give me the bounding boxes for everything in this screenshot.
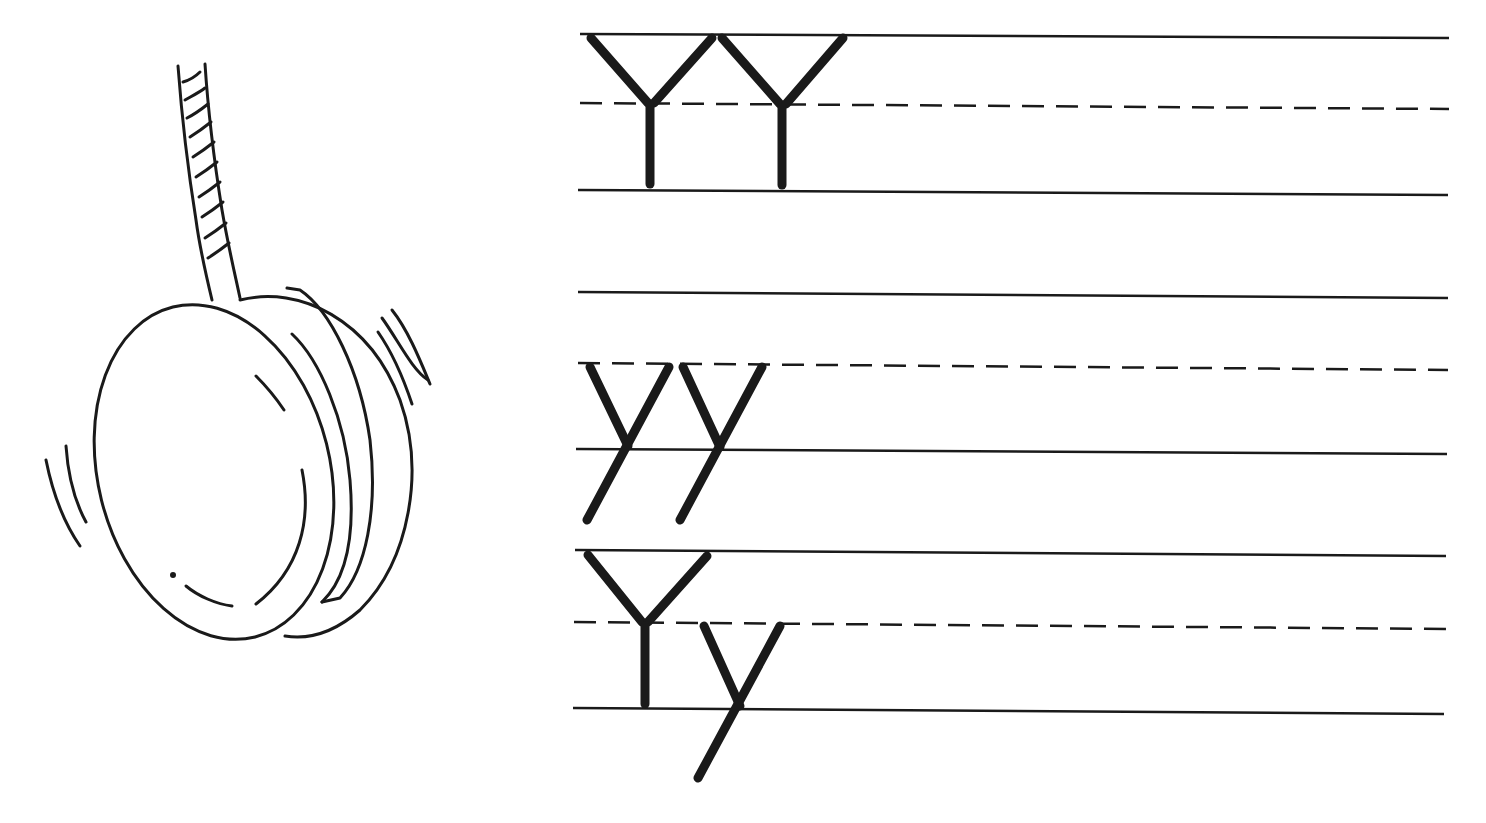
letter-Y-3 — [588, 555, 707, 704]
letter-Y-2 — [722, 38, 843, 185]
worksheet-page: yo-yo Y y — [0, 0, 1486, 823]
letter-y-2 — [680, 367, 762, 520]
row-lowercase-letters — [587, 367, 762, 520]
handwriting-lines — [573, 34, 1449, 714]
yoyo-illustration — [46, 64, 430, 665]
yoyo-front-disc — [60, 279, 367, 665]
letter-y-1 — [587, 367, 669, 520]
letter-y-3 — [698, 626, 780, 778]
letter-Y-1 — [591, 38, 712, 184]
row-mixed-letters — [588, 555, 780, 778]
row-uppercase-letters — [591, 38, 843, 185]
yoyo-string-icon — [178, 64, 240, 300]
